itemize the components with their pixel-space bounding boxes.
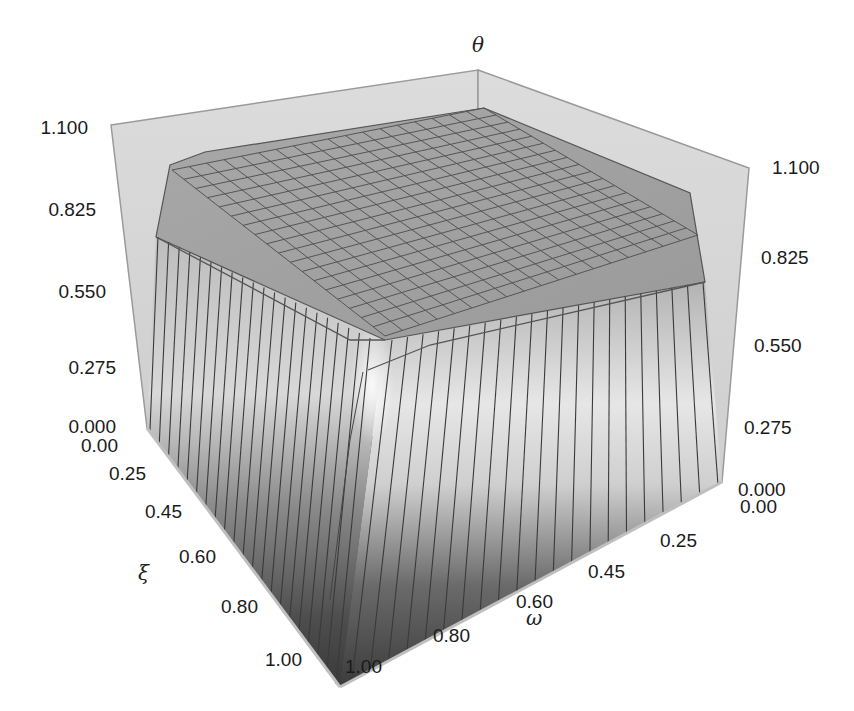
omega-axis-title: ω (526, 606, 542, 630)
z-tick-right: 0.825 (761, 247, 809, 268)
xi-tick: 0.60 (179, 546, 216, 567)
xi-tick: 0.00 (81, 435, 118, 456)
xi-tick: 0.45 (145, 501, 182, 522)
xi-tick: 0.80 (221, 596, 258, 617)
z-tick-right: 0.275 (744, 417, 792, 438)
corner-highlight (350, 325, 394, 445)
z-axis-right: 1.100 0.825 0.550 0.275 0.000 (738, 157, 820, 500)
z-axis-left: 1.100 0.825 0.550 0.275 0.000 (40, 117, 116, 437)
xi-axis-title: ξ (138, 561, 150, 585)
z-tick-left: 0.825 (48, 199, 96, 220)
omega-tick: 1.00 (345, 656, 382, 677)
omega-tick: 0.00 (740, 496, 777, 517)
xi-tick: 1.00 (265, 649, 302, 670)
z-tick-right: 1.100 (772, 157, 820, 178)
xi-tick: 0.25 (109, 463, 146, 484)
omega-tick: 0.25 (660, 530, 697, 551)
z-tick-left: 1.100 (40, 117, 88, 138)
omega-tick: 0.45 (588, 561, 625, 582)
z-tick-left: 0.000 (68, 416, 116, 437)
z-tick-left: 0.550 (58, 281, 106, 302)
theta-axis-title: θ (472, 33, 484, 57)
z-tick-right: 0.550 (754, 335, 802, 356)
z-tick-left: 0.275 (68, 357, 116, 378)
surface-plot: 1.100 0.825 0.550 0.275 0.000 1.100 0.82… (0, 0, 854, 711)
omega-tick: 0.80 (433, 625, 470, 646)
